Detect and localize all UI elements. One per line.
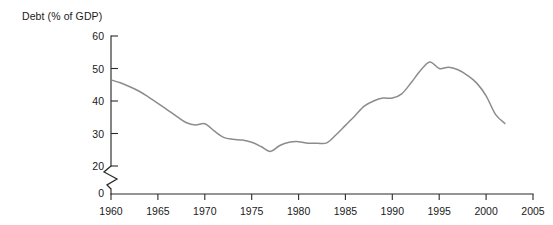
x-tick-label-1985: 1985 <box>334 205 358 217</box>
x-tick-label-1975: 1975 <box>240 205 264 217</box>
y-tick-label-50: 50 <box>92 63 104 75</box>
debt-gdp-line-chart: Debt (% of GDP) 60 50 40 30 20 0 <box>0 0 553 225</box>
x-tick-label-1965: 1965 <box>146 205 170 217</box>
x-tick-label-1960: 1960 <box>99 205 123 217</box>
chart-plot-area: 60 50 40 30 20 0 1960 1965 1970 1975 198… <box>0 0 553 225</box>
x-tick-label-1995: 1995 <box>428 205 452 217</box>
x-tick-label-2000: 2000 <box>474 205 498 217</box>
debt-series-line <box>111 62 505 151</box>
x-tick-label-1980: 1980 <box>287 205 311 217</box>
y-tick-label-40: 40 <box>92 95 104 107</box>
x-tick-label-2005: 2005 <box>521 205 545 217</box>
x-tick-label-1970: 1970 <box>193 205 217 217</box>
y-tick-label-60: 60 <box>92 30 104 42</box>
y-tick-label-20: 20 <box>92 160 104 172</box>
y-axis-group: 60 50 40 30 20 0 <box>92 30 118 199</box>
y-tick-label-30: 30 <box>92 128 104 140</box>
y-axis-break-icon <box>104 166 117 189</box>
x-axis-group: 1960 1965 1970 1975 1980 1985 1990 1995 … <box>99 194 545 217</box>
x-tick-label-1990: 1990 <box>381 205 405 217</box>
y-tick-label-0: 0 <box>98 187 104 199</box>
